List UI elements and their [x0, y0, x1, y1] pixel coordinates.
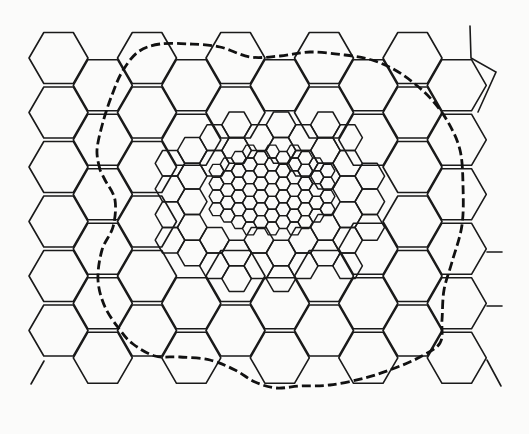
hexagonal-cell-diagram	[0, 0, 529, 434]
medium-cell	[355, 163, 385, 189]
small-cell-layer	[209, 145, 335, 235]
small-cell	[320, 177, 335, 190]
small-cell	[320, 190, 335, 203]
medium-cell	[355, 215, 385, 241]
top-right-stub	[470, 26, 496, 112]
diagram-canvas	[0, 0, 529, 434]
small-cell	[320, 203, 335, 216]
medium-cell	[177, 189, 207, 215]
bottom-left-stub	[31, 361, 44, 384]
small-cell	[320, 164, 335, 177]
bottom-right-stub	[487, 360, 501, 386]
medium-cell-layer	[155, 112, 384, 291]
medium-cell	[355, 189, 385, 215]
